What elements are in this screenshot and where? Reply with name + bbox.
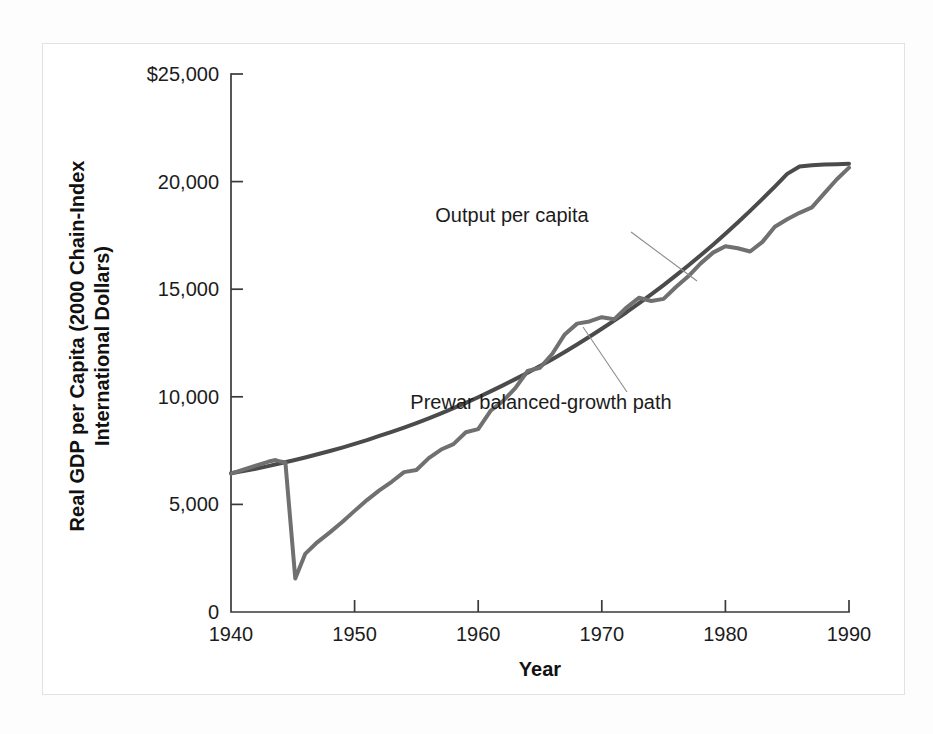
annotation-group: Output per capitaPrewar balanced-growth … bbox=[410, 204, 697, 413]
series-line-output-per-capita bbox=[231, 168, 849, 579]
x-tick-label: 1980 bbox=[703, 623, 748, 645]
y-tick-label: 20,000 bbox=[158, 171, 219, 193]
y-tick-mark-group bbox=[231, 74, 243, 504]
y-tick-label: 10,000 bbox=[158, 386, 219, 408]
x-tick-label: 1990 bbox=[827, 623, 872, 645]
y-tick-label: 0 bbox=[208, 601, 219, 623]
y-axis-title-line1: Real GDP per Capita (2000 Chain-Index bbox=[66, 161, 88, 532]
y-tick-label: 15,000 bbox=[158, 278, 219, 300]
x-tick-label-group: 194019501960197019801990 bbox=[209, 623, 872, 645]
y-tick-label: $25,000 bbox=[147, 63, 219, 85]
x-tick-label: 1940 bbox=[209, 623, 254, 645]
x-tick-label: 1950 bbox=[332, 623, 377, 645]
prewar-path-annotation-label: Prewar balanced-growth path bbox=[410, 391, 671, 413]
x-axis-title: Year bbox=[519, 658, 561, 680]
figure-root: Real GDP per Capita (2000 Chain-Index In… bbox=[0, 0, 933, 734]
y-axis-title-line2: International Dollars) bbox=[91, 246, 113, 446]
chart-canvas: Real GDP per Capita (2000 Chain-Index In… bbox=[0, 0, 933, 734]
x-tick-mark-group bbox=[355, 600, 849, 612]
y-tick-label-group: 05,00010,00015,00020,000$25,000 bbox=[147, 63, 219, 623]
y-tick-label: 5,000 bbox=[169, 493, 219, 515]
output-per-capita-annotation-leader-line bbox=[631, 232, 697, 281]
y-axis-title: Real GDP per Capita (2000 Chain-Index In… bbox=[66, 161, 113, 532]
output-per-capita-annotation-label: Output per capita bbox=[435, 204, 589, 226]
axis-lines bbox=[231, 74, 849, 612]
x-tick-label: 1960 bbox=[456, 623, 501, 645]
prewar-path-annotation-leader-line bbox=[583, 327, 627, 392]
x-tick-label: 1970 bbox=[580, 623, 625, 645]
